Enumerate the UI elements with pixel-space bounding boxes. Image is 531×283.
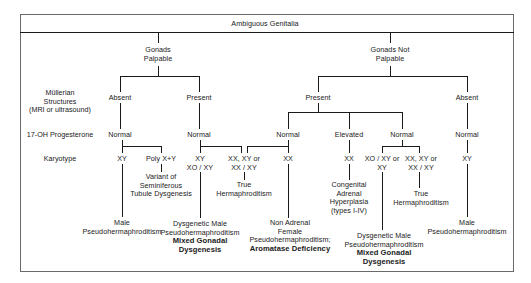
node-palpable-mullerian-present: Present: [186, 94, 211, 103]
result-non-adrenal-female: Non Adrenal Female Pseudohermaphroditism…: [249, 219, 330, 253]
node-label-line: Palpable: [144, 55, 172, 64]
result-line: Tubule Dysgenesis: [130, 190, 192, 199]
node-karyotype-xx-xy-mosaic-2: XX, XY or XX / XY: [405, 155, 437, 172]
result-line-bold: Dysgenesis: [161, 246, 240, 255]
node-karyotype-xx-xy-mosaic: XX, XY or XX / XY: [228, 155, 260, 172]
node-not-palpable-mullerian-present: Present: [305, 94, 330, 103]
result-dysgenetic-male-right: Dysgenetic Male Pseudohermaphroditism Mi…: [345, 232, 424, 266]
karyotype-line: XO / XY: [187, 164, 213, 173]
karyotype-line: XX / XY: [405, 164, 437, 173]
node-progesterone-elevated: Elevated: [335, 131, 363, 140]
result-line: (types I-IV): [330, 207, 369, 216]
row-label-progesterone: 17-OH Progesterone: [27, 131, 93, 140]
node-gonads-not-palpable: Gonads Not Palpable: [371, 46, 410, 63]
row-label-mullerian: Müllerian Structures (MRI or ultrasound): [29, 89, 91, 115]
karyotype-line: XX / XY: [228, 164, 260, 173]
result-true-hermaphroditism-right: True Hermaphroditism: [393, 190, 448, 207]
result-seminiferous-variant: Variant of Seminiferous Tubule Dysgenesi…: [130, 173, 192, 199]
node-karyotype-xy-xo: XY XO / XY: [187, 155, 213, 172]
node-karyotype-xx-2: XX: [344, 155, 354, 164]
node-palpable-mullerian-absent: Absent: [109, 94, 132, 103]
result-dysgenetic-male-left: Dysgenetic Male Pseudohermaphroditism Mi…: [161, 220, 240, 254]
node-karyotype-xy-right: XY: [462, 155, 472, 164]
node-label-line: Palpable: [371, 55, 410, 64]
node-progesterone-normal-2: Normal: [390, 131, 413, 140]
karyotype-line: XY: [365, 164, 400, 173]
node-palpable-absent-progesterone: Normal: [108, 131, 131, 140]
result-male-pseudohermaphroditism-left: Male Pseudohermaphroditism: [83, 219, 162, 236]
result-line-bold: Dysgenesis: [345, 258, 424, 267]
node-karyotype-poly: Poly X+Y: [146, 155, 176, 164]
result-line: Pseudohermaphroditism: [428, 228, 507, 237]
node-gonads-palpable: Gonads Palpable: [144, 46, 172, 63]
result-line-bold: Aromatase Deficiency: [249, 245, 330, 254]
node-not-palpable-absent-progesterone: Normal: [455, 131, 478, 140]
node-karyotype-xy: XY: [117, 155, 127, 164]
row-label-karyotype: Karyotype: [44, 155, 76, 164]
result-true-hermaphroditism-left: True Hermaphroditism: [216, 181, 271, 198]
result-male-pseudohermaphroditism-right: Male Pseudohermaphroditism: [428, 219, 507, 236]
node-palpable-present-progesterone: Normal: [187, 131, 210, 140]
result-line: Pseudohermaphroditism: [83, 228, 162, 237]
row-label-line: (MRI or ultrasound): [29, 106, 91, 115]
result-line: Hermaphroditism: [393, 199, 448, 208]
node-not-palpable-mullerian-absent: Absent: [456, 94, 479, 103]
node-progesterone-normal-1: Normal: [276, 131, 299, 140]
node-karyotype-xx-1: XX: [283, 155, 293, 164]
result-line: Hermaphroditism: [216, 190, 271, 199]
root-node: Ambiguous Genitalia: [231, 20, 298, 29]
result-congenital-adrenal-hyperplasia: Congenital Adrenal Hyperplasia (types I-…: [330, 181, 369, 215]
node-karyotype-xo-xy: XO / XY or XY: [365, 155, 400, 172]
